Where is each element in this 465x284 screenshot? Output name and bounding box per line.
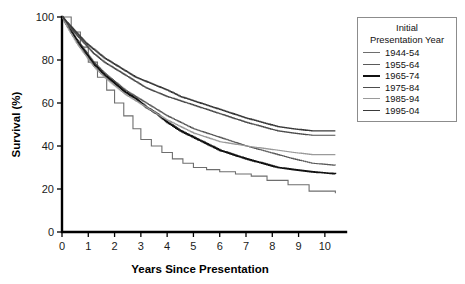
- y-tick-label: 60: [42, 97, 54, 109]
- survival-chart-figure: 020406080100012345678910 Years Since Pre…: [0, 0, 465, 284]
- legend-item: 1975-84: [363, 82, 451, 94]
- y-tick-label: 20: [42, 183, 54, 195]
- x-tick-label: 3: [138, 240, 144, 252]
- x-tick-label: 6: [217, 240, 223, 252]
- y-tick-label: 0: [48, 226, 54, 238]
- legend-item: 1944-54: [363, 47, 451, 59]
- x-tick-label: 4: [164, 240, 170, 252]
- chart-legend: Initial Presentation Year 1944-541955-64…: [357, 17, 457, 122]
- chart-series-group: [62, 17, 335, 193]
- x-tick-label: 10: [319, 240, 331, 252]
- legend-item: 1965-74: [363, 70, 451, 82]
- legend-swatch-1995-04: [363, 110, 380, 111]
- x-tick-label: 8: [269, 240, 275, 252]
- series-line-1985-94: [62, 17, 335, 155]
- y-tick-label: 40: [42, 140, 54, 152]
- legend-label-1975-84: 1975-84: [385, 82, 419, 93]
- x-axis-title: Years Since Presentation: [131, 263, 268, 275]
- legend-swatch-1944-54: [363, 52, 380, 53]
- legend-swatch-1975-84: [363, 87, 380, 88]
- series-line-1965-74: [62, 17, 335, 174]
- axis-spines: [62, 17, 346, 232]
- x-tick-label: 7: [243, 240, 249, 252]
- legend-title-line2: Presentation Year: [363, 34, 451, 46]
- series-line-1944-54: [62, 17, 335, 193]
- legend-title-line1: Initial: [363, 22, 451, 34]
- x-tick-label: 1: [85, 240, 91, 252]
- x-tick-label: 2: [112, 240, 118, 252]
- legend-item: 1985-94: [363, 93, 451, 105]
- series-line-1955-64: [62, 17, 335, 165]
- x-tick-label: 9: [296, 240, 302, 252]
- y-tick-label: 80: [42, 54, 54, 66]
- legend-label-1955-64: 1955-64: [385, 59, 419, 70]
- legend-label-1995-04: 1995-04: [385, 105, 419, 116]
- legend-swatch-1985-94: [363, 98, 380, 99]
- legend-label-1944-54: 1944-54: [385, 47, 419, 58]
- legend-item-list: 1944-541955-641965-741975-841985-941995-…: [363, 47, 451, 116]
- legend-label-1985-94: 1985-94: [385, 93, 419, 104]
- legend-swatch-1955-64: [363, 64, 380, 65]
- x-tick-label: 5: [190, 240, 196, 252]
- legend-label-1965-74: 1965-74: [385, 70, 419, 81]
- legend-swatch-1965-74: [363, 75, 380, 77]
- legend-item: 1995-04: [363, 105, 451, 117]
- x-tick-label: 0: [59, 240, 65, 252]
- y-axis-title: Survival (%): [10, 91, 22, 157]
- y-tick-label: 100: [36, 11, 54, 23]
- legend-item: 1955-64: [363, 59, 451, 71]
